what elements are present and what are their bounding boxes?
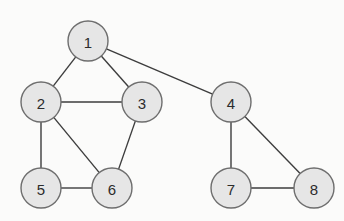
node-3: 3 (122, 82, 162, 122)
edge-3-6 (119, 121, 136, 169)
edge-1-3 (101, 56, 128, 87)
node-label: 1 (84, 34, 92, 51)
node-label: 4 (227, 95, 235, 112)
edges-group (41, 49, 300, 188)
node-6: 6 (92, 168, 132, 208)
node-label: 6 (108, 181, 116, 198)
node-label: 8 (310, 181, 318, 198)
nodes-group: 12345678 (21, 21, 334, 208)
node-2: 2 (21, 82, 61, 122)
edge-1-4 (106, 49, 212, 94)
edge-4-8 (245, 116, 300, 173)
node-7: 7 (211, 168, 251, 208)
node-label: 2 (37, 95, 45, 112)
node-8: 8 (294, 168, 334, 208)
edge-2-6 (54, 117, 100, 172)
edge-1-2 (53, 57, 76, 86)
graph-diagram: 12345678 (0, 0, 344, 221)
node-label: 3 (138, 95, 146, 112)
node-4: 4 (211, 82, 251, 122)
node-label: 7 (227, 181, 235, 198)
node-5: 5 (21, 168, 61, 208)
node-1: 1 (68, 21, 108, 61)
node-label: 5 (37, 181, 45, 198)
